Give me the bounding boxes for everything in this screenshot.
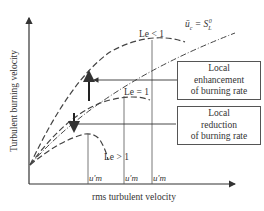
um-tick-2: u'm [125, 173, 138, 183]
box-line: of burning rate [181, 86, 257, 98]
box-line: reduction [181, 120, 257, 132]
um-tick-3: u'm [153, 173, 166, 183]
um-tick-1: u'm [89, 173, 102, 183]
y-axis-label: Turbulent burning velocity [9, 43, 19, 159]
curve-le-less-1 [30, 38, 185, 165]
box-line: of burning rate [181, 131, 257, 143]
enhancement-box: Local enhancement of burning rate [177, 61, 261, 100]
x-axis-label: rms turbulent velocity [92, 193, 176, 203]
label-le-less-1: Le < 1 [139, 30, 164, 40]
box-line: Local [181, 63, 257, 75]
label-le-equal-1: Le = 1 [124, 88, 149, 98]
curve-le-equal-1 [30, 97, 150, 165]
box-line: Local [181, 108, 257, 120]
reference-line-label: ūc = SL0 [185, 18, 212, 31]
reduction-box: Local reduction of burning rate [177, 106, 261, 145]
label-le-greater-1: Le > 1 [104, 153, 129, 163]
box-line: enhancement [181, 75, 257, 87]
